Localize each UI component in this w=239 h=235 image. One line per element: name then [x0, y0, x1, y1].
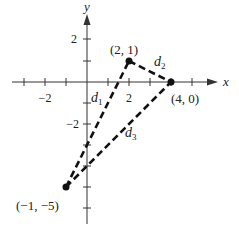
point-label-neg1-neg5: (−1, −5): [16, 198, 59, 213]
segment-label-d2: d2: [154, 54, 166, 71]
y-axis-arrow-icon: [84, 14, 91, 25]
point-4-0: [168, 79, 175, 86]
x-axis-label: x: [222, 74, 229, 89]
segment-label-d3: d3: [125, 125, 137, 142]
y-tick-label-2: 2: [71, 32, 77, 46]
point-label-2-1: (2, 1): [110, 42, 138, 57]
point-2-1: [126, 58, 133, 65]
y-axis-label: y: [82, 0, 90, 14]
segment-label-d1: d1: [91, 90, 103, 107]
point-label-4-0: (4, 0): [171, 91, 199, 106]
point-neg1-neg5: [63, 184, 70, 191]
y-axis: y 2 −2: [66, 0, 91, 224]
x-tick-label-neg2: −2: [39, 91, 52, 105]
points: [63, 58, 175, 191]
x-tick-label-2: 2: [126, 91, 132, 105]
y-tick-label-neg2: −2: [66, 117, 79, 131]
triangle-segments: [66, 61, 171, 187]
x-axis-arrow-icon: [207, 79, 218, 86]
coordinate-plane-diagram: x −2 2 y 2 −2 (2, 1) (4, 0) (−1, −5) d1: [0, 0, 239, 235]
segment-d3: [66, 82, 171, 187]
